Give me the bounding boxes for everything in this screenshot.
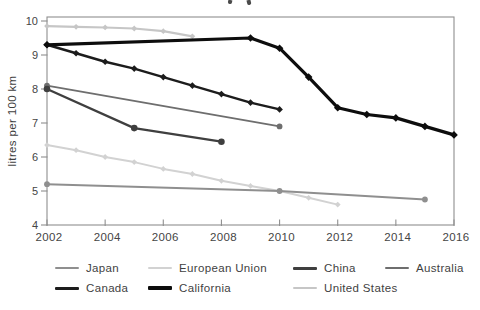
x-tick-label: 2010 — [268, 231, 295, 243]
data-point-canada — [131, 65, 138, 72]
y-tick-label: 7 — [32, 117, 38, 129]
legend-label-european-union: European Union — [179, 262, 267, 274]
legend-swatch-japan — [55, 267, 79, 269]
data-point-european-union — [44, 142, 50, 148]
x-tick-label: 2002 — [36, 231, 63, 243]
data-point-california — [450, 131, 458, 139]
series-australia — [44, 83, 282, 130]
legend-swatch-european-union — [148, 267, 172, 269]
data-point-european-union — [248, 183, 254, 189]
legend-item-china: China — [293, 262, 356, 274]
y-tick-label: 8 — [32, 83, 38, 95]
data-point-japan — [277, 188, 283, 194]
legend-swatch-canada — [55, 287, 79, 290]
series-european-union — [44, 142, 341, 207]
data-point-european-union — [189, 171, 195, 177]
legend-item-california: California — [148, 282, 231, 294]
data-point-australia — [277, 124, 283, 130]
legend-label-united-states: United States — [324, 282, 398, 294]
series-china — [44, 86, 225, 145]
x-tick-label: 2014 — [384, 231, 411, 243]
legend-label-canada: Canada — [86, 282, 128, 294]
legend-label-australia: Australia — [416, 262, 464, 274]
y-tick-label: 4 — [32, 219, 38, 231]
data-point-california — [363, 111, 371, 119]
legend-label-japan: Japan — [86, 262, 119, 274]
x-axis: 20022004200620082010201220142016 — [36, 220, 470, 244]
data-point-canada — [276, 106, 283, 113]
x-tick-label: 2004 — [94, 231, 121, 243]
x-tick-label: 2012 — [326, 231, 353, 243]
y-tick-label: 5 — [32, 185, 38, 197]
data-point-california — [421, 123, 429, 131]
data-point-china — [131, 125, 138, 132]
legend-swatch-california — [148, 286, 172, 290]
data-point-european-union — [73, 147, 79, 153]
x-tick-label: 2008 — [210, 231, 237, 243]
y-axis-label: litres per 100 km — [6, 76, 18, 167]
data-point-european-union — [335, 202, 341, 208]
data-point-canada — [247, 99, 254, 106]
legend-label-california: California — [179, 282, 231, 294]
y-tick-label: 6 — [32, 151, 38, 163]
legend-item-united-states: United States — [293, 282, 398, 294]
x-tick-label: 2016 — [443, 231, 470, 243]
data-point-canada — [189, 82, 196, 89]
legend-item-japan: Japan — [55, 262, 119, 274]
series-japan — [44, 181, 428, 202]
data-point-european-union — [306, 195, 312, 201]
legend-swatch-china — [293, 267, 317, 270]
legend-label-china: China — [324, 262, 356, 274]
x-tick-label: 2006 — [152, 231, 179, 243]
data-point-european-union — [131, 159, 137, 165]
legend-item-european-union: European Union — [148, 262, 267, 274]
fuel-economy-line-chart-figure: 4567891020022004200620082010201220142016… — [0, 0, 480, 310]
data-point-california — [392, 114, 400, 122]
data-point-european-union — [102, 154, 108, 160]
data-point-canada — [160, 74, 167, 81]
legend-item-canada: Canada — [55, 282, 128, 294]
data-point-japan — [44, 181, 50, 187]
data-point-european-union — [219, 178, 225, 184]
legend-swatch-united-states — [293, 287, 317, 289]
data-point-canada — [218, 91, 225, 98]
data-point-china — [44, 86, 51, 93]
legend: JapanEuropean UnionChinaAustraliaCanadaC… — [0, 0, 480, 60]
legend-swatch-australia — [385, 267, 409, 269]
data-point-japan — [422, 197, 428, 203]
data-point-european-union — [160, 166, 166, 172]
legend-item-australia: Australia — [385, 262, 464, 274]
data-point-china — [218, 138, 225, 145]
